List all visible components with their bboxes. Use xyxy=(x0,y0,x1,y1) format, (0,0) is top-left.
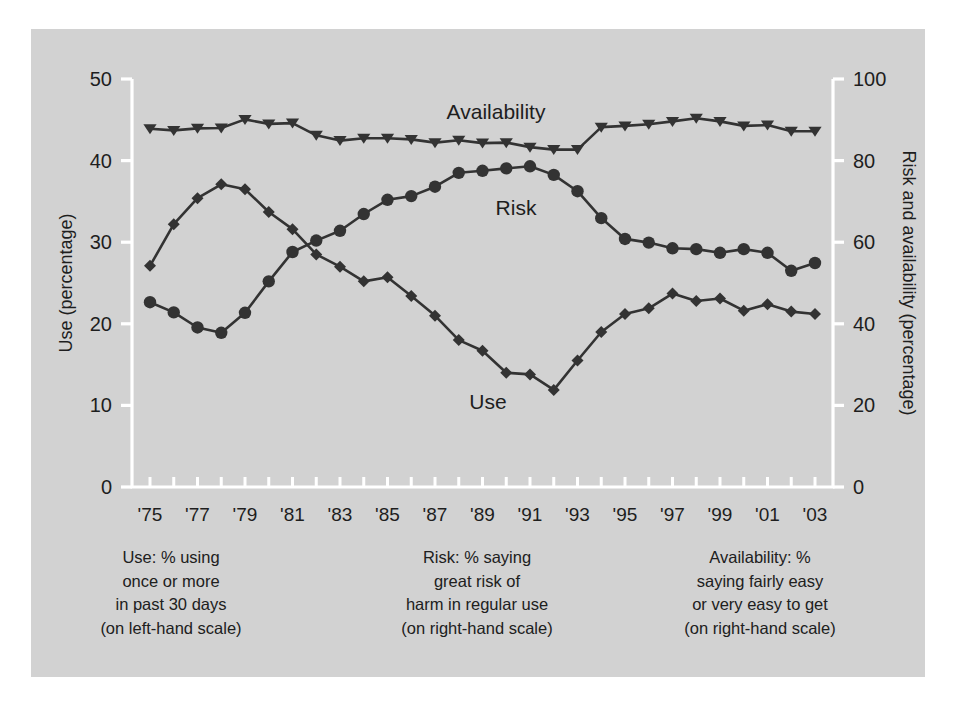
left-tick-label: 10 xyxy=(90,394,112,416)
series-marker xyxy=(643,302,655,314)
series-marker xyxy=(144,260,156,272)
x-tick-label: '75 xyxy=(138,504,163,525)
series-marker xyxy=(191,321,203,333)
series-marker xyxy=(762,298,774,310)
left-axis-title: Use (percentage) xyxy=(56,213,76,352)
series-layer xyxy=(143,114,821,396)
caption-availability: Availability: % saying fairly easy or ve… xyxy=(640,546,880,640)
series-marker xyxy=(524,160,536,172)
x-tick-label: '89 xyxy=(470,504,495,525)
left-tick-label: 30 xyxy=(90,231,112,253)
series-label-use: Use xyxy=(469,390,506,413)
series-marker xyxy=(785,265,797,277)
series-marker xyxy=(429,181,441,193)
series-marker xyxy=(595,212,607,224)
series-marker xyxy=(690,295,702,307)
series-marker xyxy=(548,169,560,181)
series-marker xyxy=(714,293,726,305)
series-label-risk: Risk xyxy=(496,196,537,219)
series-marker xyxy=(334,261,346,273)
x-tick-label: '79 xyxy=(233,504,258,525)
right-axis-title: Risk and availability (percentage) xyxy=(899,150,919,415)
chart-figure: 01020304050020406080100'75'77'79'81'83'8… xyxy=(0,0,957,707)
series-line xyxy=(150,184,815,390)
axis-layer: 01020304050020406080100'75'77'79'81'83'8… xyxy=(56,68,919,525)
series-marker xyxy=(667,288,679,300)
series-marker xyxy=(619,233,631,245)
x-tick-label: '95 xyxy=(613,504,638,525)
series-marker xyxy=(263,275,275,287)
right-tick-label: 0 xyxy=(853,476,864,498)
series-marker xyxy=(738,243,750,255)
series-marker xyxy=(809,257,821,269)
right-tick-label: 40 xyxy=(853,313,875,335)
series-label-availability: Availability xyxy=(447,100,546,123)
series-marker xyxy=(809,308,821,320)
series-marker xyxy=(785,306,797,318)
series-marker xyxy=(643,236,655,248)
x-tick-label: '85 xyxy=(375,504,400,525)
x-tick-label: '83 xyxy=(328,504,353,525)
x-tick-label: '97 xyxy=(660,504,685,525)
caption-use: Use: % using once or more in past 30 day… xyxy=(56,546,286,640)
right-tick-label: 60 xyxy=(853,231,875,253)
series-marker xyxy=(476,165,488,177)
left-tick-label: 50 xyxy=(90,68,112,90)
series-marker xyxy=(405,190,417,202)
left-tick-label: 0 xyxy=(101,476,112,498)
series-marker xyxy=(738,305,750,317)
series-marker xyxy=(666,242,678,254)
right-tick-label: 80 xyxy=(853,150,875,172)
x-tick-label: '87 xyxy=(423,504,448,525)
series-marker xyxy=(239,307,251,319)
left-tick-label: 40 xyxy=(90,150,112,172)
x-tick-label: '99 xyxy=(708,504,733,525)
series-marker xyxy=(500,162,512,174)
series-marker xyxy=(714,247,726,259)
series-marker xyxy=(381,194,393,206)
series-marker xyxy=(571,185,583,197)
x-tick-label: '91 xyxy=(518,504,543,525)
series-marker xyxy=(761,247,773,259)
left-tick-label: 20 xyxy=(90,313,112,335)
x-tick-label: '77 xyxy=(185,504,210,525)
x-tick-label: '81 xyxy=(280,504,305,525)
series-marker xyxy=(453,167,465,179)
x-tick-label: '03 xyxy=(803,504,828,525)
x-tick-label: '93 xyxy=(565,504,590,525)
series-marker xyxy=(358,208,370,220)
right-tick-label: 20 xyxy=(853,394,875,416)
series-marker xyxy=(334,225,346,237)
series-marker xyxy=(215,178,227,190)
series-marker xyxy=(144,296,156,308)
series-marker xyxy=(690,243,702,255)
series-marker xyxy=(358,275,370,287)
x-tick-label: '01 xyxy=(755,504,780,525)
series-use xyxy=(144,178,821,396)
series-marker xyxy=(310,234,322,246)
series-marker xyxy=(215,327,227,339)
right-tick-label: 100 xyxy=(853,68,886,90)
caption-risk: Risk: % saying great risk of harm in reg… xyxy=(352,546,602,640)
series-marker xyxy=(168,306,180,318)
series-marker xyxy=(286,246,298,258)
